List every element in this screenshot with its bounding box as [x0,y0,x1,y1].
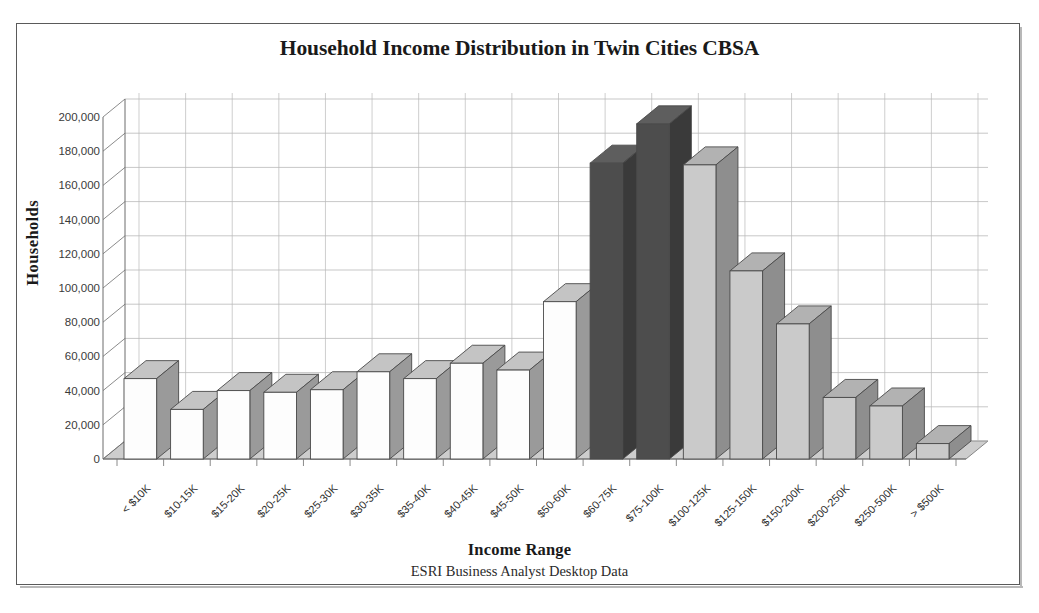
y-tick-label: 40,000 [30,385,100,397]
y-tick-label: 140,000 [30,214,100,226]
x-axis-title: Income Range [0,540,1039,560]
y-tick-label: 120,000 [30,248,100,260]
y-tick-label: 20,000 [30,419,100,431]
frame-drop-shadow-right [1020,27,1022,587]
plot-area: 020,00040,00060,00080,000100,000120,0001… [103,93,988,473]
frame-drop-shadow-bottom [20,586,1023,588]
bar-chart-canvas [103,93,988,473]
y-tick-label: 180,000 [30,145,100,157]
chart-title: Household Income Distribution in Twin Ci… [0,36,1039,61]
y-tick-label: 100,000 [30,282,100,294]
x-axis-subtitle: ESRI Business Analyst Desktop Data [0,563,1039,580]
y-tick-label: 200,000 [30,111,100,123]
y-tick-label: 80,000 [30,316,100,328]
chart-figure: Household Income Distribution in Twin Ci… [0,0,1039,613]
y-tick-label: 60,000 [30,350,100,362]
y-tick-label: 0 [30,453,100,465]
y-tick-label: 160,000 [30,179,100,191]
x-axis-tick-labels: < $10K$10-15K$15-20K$20-25K$25-30K$30-35… [103,478,1003,548]
